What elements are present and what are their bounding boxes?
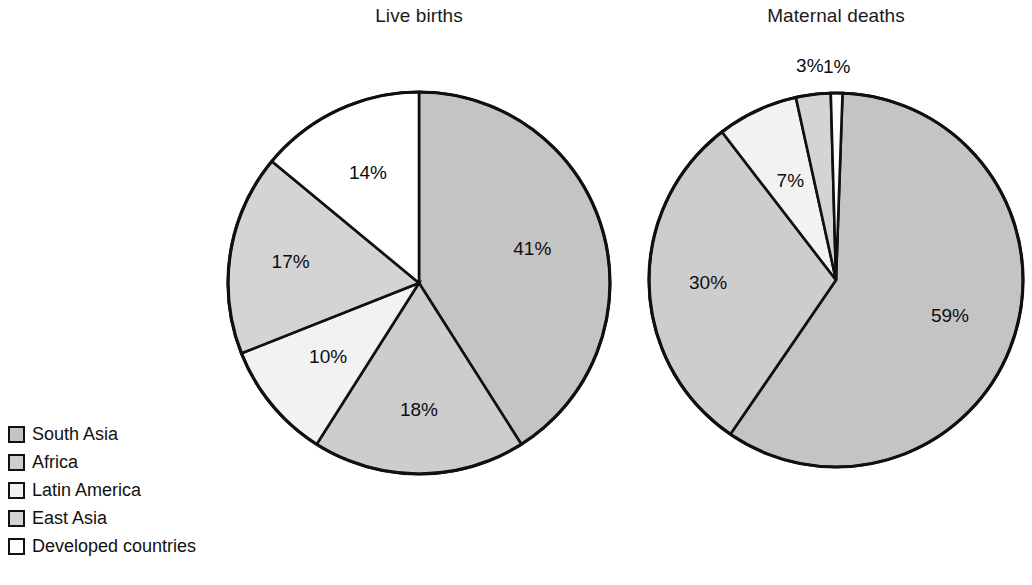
pie-value-label-east_asia: 17% xyxy=(272,251,310,272)
pie-chart-maternal-deaths: 59%30%7%3%1% xyxy=(638,78,1032,482)
legend-swatch-east_asia xyxy=(8,510,25,527)
legend-item-africa: Africa xyxy=(8,448,308,476)
legend-swatch-south_asia xyxy=(8,426,25,443)
legend-item-developed_countries: Developed countries xyxy=(8,532,308,560)
pie-value-label-south_asia: 59% xyxy=(931,305,969,326)
legend-label-latin_america: Latin America xyxy=(32,481,141,499)
legend-item-east_asia: East Asia xyxy=(8,504,308,532)
chart-title-maternal-deaths: Maternal deaths xyxy=(640,5,1032,27)
legend-item-latin_america: Latin America xyxy=(8,476,308,504)
figure-canvas: Live births Maternal deaths 41%18%10%17%… xyxy=(0,0,1032,585)
legend-swatch-africa xyxy=(8,454,25,471)
legend: South AsiaAfricaLatin AmericaEast AsiaDe… xyxy=(8,420,308,560)
legend-item-south_asia: South Asia xyxy=(8,420,308,448)
pie-value-label-developed_countries: 14% xyxy=(349,162,387,183)
pie-value-label-east_asia: 3% xyxy=(796,55,824,76)
pie-value-label-developed_countries: 1% xyxy=(823,56,851,77)
legend-label-east_asia: East Asia xyxy=(32,509,107,527)
legend-swatch-latin_america xyxy=(8,482,25,499)
pie-value-label-south_asia: 41% xyxy=(513,238,551,259)
legend-label-developed_countries: Developed countries xyxy=(32,537,196,555)
pie-value-label-africa: 18% xyxy=(400,399,438,420)
pie-value-label-latin_america: 10% xyxy=(309,346,347,367)
pie-chart-maternal-deaths-svg: 59%30%7%3%1% xyxy=(638,78,1032,482)
pie-value-label-africa: 30% xyxy=(689,272,727,293)
legend-swatch-developed_countries xyxy=(8,538,25,555)
legend-label-africa: Africa xyxy=(32,453,78,471)
legend-label-south_asia: South Asia xyxy=(32,425,118,443)
pie-value-label-latin_america: 7% xyxy=(777,170,805,191)
